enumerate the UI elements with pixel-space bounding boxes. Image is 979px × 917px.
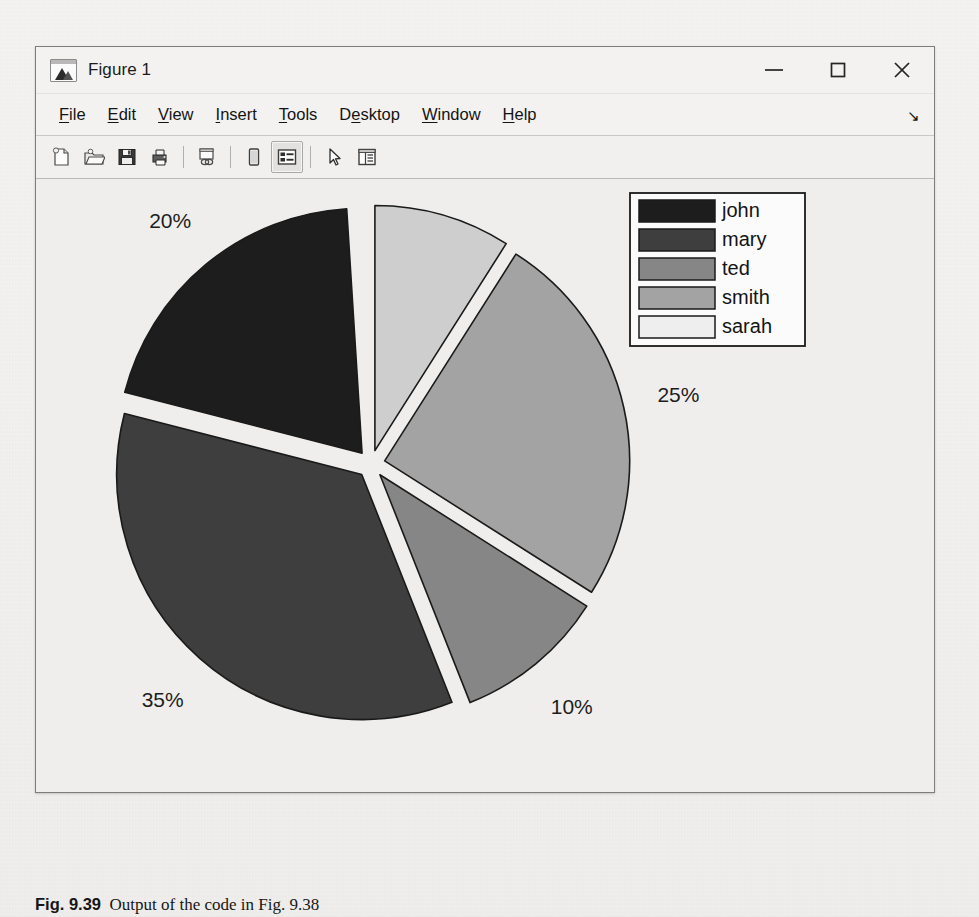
toolbar-separator <box>310 146 311 168</box>
menu-prefix-desktop: D <box>339 105 351 123</box>
minimize-icon[interactable] <box>742 47 806 93</box>
pie-label-ted: 10% <box>551 695 593 718</box>
menu-accel-view: V <box>158 105 169 123</box>
title-bar[interactable]: Figure 1 <box>36 47 934 94</box>
menu-label-insert: nsert <box>220 105 257 123</box>
figure-caption: Fig. 9.39 Output of the code in Fig. 9.3… <box>35 895 319 915</box>
link-plot-icon[interactable] <box>191 141 223 173</box>
toolbar <box>36 136 934 179</box>
toolbar-separator <box>183 146 184 168</box>
legend-label-mary: mary <box>722 228 766 250</box>
legend-swatch-john <box>639 200 715 222</box>
figure-window: Figure 1 File Edit View Insert Tools Des… <box>35 46 935 793</box>
menu-item-window[interactable]: Window <box>411 102 492 127</box>
legend-swatch-mary <box>639 229 715 251</box>
pie-label-john: 20% <box>149 209 191 232</box>
legend-label-ted: ted <box>722 257 750 279</box>
menu-accel-window: W <box>422 105 438 123</box>
menu-accel-help: H <box>503 105 515 123</box>
menu-accel-file: F <box>59 105 69 123</box>
legend-swatch-ted <box>639 258 715 280</box>
figure-canvas[interactable]: 9%25%10%35%20% johnmarytedsmithsarah <box>36 179 934 792</box>
menu-label-file: ile <box>69 105 86 123</box>
menu-overflow-icon[interactable]: ↘ <box>907 107 920 122</box>
menu-label-desktop: sktop <box>360 105 399 123</box>
legend-label-john: john <box>721 199 760 221</box>
menu-label-tools: ools <box>287 105 317 123</box>
property-inspector-icon[interactable] <box>351 141 383 173</box>
legend-label-smith: smith <box>722 286 770 308</box>
menu-label-view: iew <box>169 105 194 123</box>
menu-item-edit[interactable]: Edit <box>97 102 147 127</box>
matlab-figure-icon <box>50 59 77 82</box>
caption-text: Output of the code in Fig. 9.38 <box>110 895 320 914</box>
menu-item-insert[interactable]: Insert <box>205 102 268 127</box>
window-controls <box>742 47 934 93</box>
menu-label-window: indow <box>437 105 480 123</box>
pie-label-smith: 25% <box>657 383 699 406</box>
menu-label-edit: dit <box>119 105 136 123</box>
menu-accel-tools: T <box>279 105 287 123</box>
menu-bar: File Edit View Insert Tools Desktop Wind… <box>36 94 934 136</box>
legend-label-sarah: sarah <box>722 315 772 337</box>
caption-figure-number: Fig. 9.39 <box>35 895 101 913</box>
pie-label-mary: 35% <box>142 688 184 711</box>
menu-item-file[interactable]: File <box>48 102 97 127</box>
new-figure-icon[interactable] <box>45 141 77 173</box>
menu-item-view[interactable]: View <box>147 102 204 127</box>
window-title: Figure 1 <box>88 60 151 80</box>
pie-chart[interactable]: 9%25%10%35%20% johnmarytedsmithsarah <box>36 179 932 792</box>
legend-swatch-sarah <box>639 316 715 338</box>
open-file-icon[interactable] <box>78 141 110 173</box>
legend-icon[interactable] <box>271 141 303 173</box>
save-figure-icon[interactable] <box>111 141 143 173</box>
menu-label-help: elp <box>515 105 537 123</box>
maximize-icon[interactable] <box>806 47 870 93</box>
colorbar-icon[interactable] <box>238 141 270 173</box>
menu-accel-edit: E <box>108 105 119 123</box>
menu-item-tools[interactable]: Tools <box>268 102 329 127</box>
print-figure-icon[interactable] <box>144 141 176 173</box>
legend-swatch-smith <box>639 287 715 309</box>
toolbar-separator <box>230 146 231 168</box>
menu-item-desktop[interactable]: Desktop <box>328 102 411 127</box>
pointer-arrow-icon[interactable] <box>318 141 350 173</box>
close-icon[interactable] <box>870 47 934 93</box>
chart-legend[interactable]: johnmarytedsmithsarah <box>630 193 805 346</box>
menu-item-help[interactable]: Help <box>492 102 548 127</box>
pie-slice-john[interactable] <box>125 209 362 454</box>
pie-slice-group[interactable] <box>117 206 630 720</box>
